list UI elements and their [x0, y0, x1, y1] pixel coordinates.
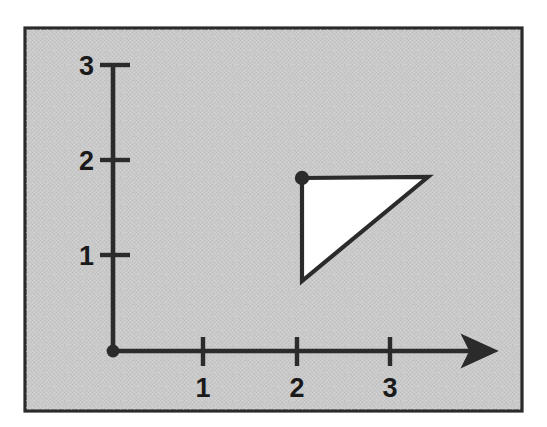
y-axis-label-3: 3: [79, 51, 94, 81]
x-axis-label-2: 2: [289, 373, 304, 403]
origin-dot-marker: [107, 345, 120, 358]
x-axis-label-1: 1: [195, 373, 210, 403]
y-axis-label-2: 2: [79, 146, 94, 176]
coordinate-plane-figure: 3 2 1 1 2 3: [0, 0, 547, 427]
y-axis-label-1: 1: [79, 241, 94, 271]
x-axis-label-3: 3: [382, 373, 397, 403]
figure-root: 3 2 1 1 2 3: [0, 0, 547, 427]
plot-frame: [25, 28, 522, 411]
triangle-vertex-dot-marker: [295, 171, 309, 185]
